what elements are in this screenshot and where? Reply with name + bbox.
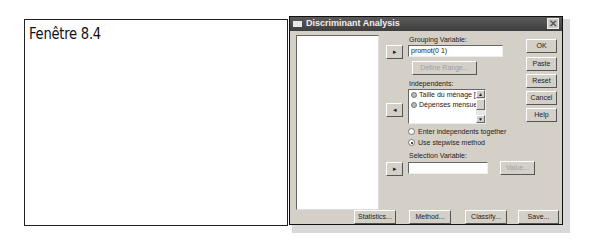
radio-button-icon xyxy=(408,128,415,135)
figure-caption: Fenêtre 8.4 xyxy=(29,24,101,43)
paste-button[interactable]: Paste xyxy=(526,57,557,71)
define-range-button[interactable]: Define Range... xyxy=(412,61,477,75)
scale-variable-icon xyxy=(411,102,417,108)
selection-variable-label: Selection Variable: xyxy=(409,152,467,159)
window-icon xyxy=(293,21,302,27)
source-variable-list[interactable] xyxy=(296,35,379,210)
classify-button[interactable]: Classify... xyxy=(465,210,507,224)
radio-stepwise[interactable]: Use stepwise method xyxy=(408,139,485,146)
discriminant-analysis-dialog: Discriminant Analysis ✕ ▸ Grouping Varia… xyxy=(289,16,563,225)
radio-button-selected-icon xyxy=(408,139,415,146)
list-item[interactable]: Dépenses mensuel xyxy=(411,101,479,108)
arrow-right-icon: ▸ xyxy=(393,165,397,172)
dialog-title: Discriminant Analysis xyxy=(306,18,400,28)
radio-enter-together[interactable]: Enter independents together xyxy=(408,128,506,135)
move-to-grouping-button[interactable]: ▸ xyxy=(386,45,403,59)
scroll-down-icon[interactable]: ▼ xyxy=(476,115,485,123)
cancel-button[interactable]: Cancel xyxy=(526,91,557,105)
scale-variable-icon xyxy=(411,92,417,98)
statistics-button[interactable]: Statistics... xyxy=(354,210,396,224)
independents-label: Independents: xyxy=(409,80,453,87)
move-to-independents-button[interactable]: ◂ xyxy=(386,103,403,117)
save-button[interactable]: Save... xyxy=(518,210,559,224)
independents-scrollbar[interactable]: ▲ ▼ xyxy=(476,90,485,123)
value-button[interactable]: Value... xyxy=(500,161,535,175)
reset-button[interactable]: Reset xyxy=(526,74,557,88)
selection-variable-field[interactable] xyxy=(408,162,488,174)
method-button[interactable]: Method... xyxy=(409,210,451,224)
move-to-selection-button[interactable]: ▸ xyxy=(386,162,403,176)
arrow-right-icon: ▸ xyxy=(393,48,397,55)
title-bar[interactable]: Discriminant Analysis ✕ xyxy=(290,17,562,31)
independents-list[interactable]: Taille du ménage [t Dépenses mensuel ▲ ▼ xyxy=(408,89,486,124)
grouping-variable-label: Grouping Variable: xyxy=(409,36,467,43)
scroll-thumb[interactable] xyxy=(476,99,485,110)
figure-caption-box: Fenêtre 8.4 xyxy=(24,19,288,226)
close-icon[interactable]: ✕ xyxy=(547,18,559,29)
ok-button[interactable]: OK xyxy=(526,39,557,53)
help-button[interactable]: Help xyxy=(526,108,557,122)
arrow-left-icon: ◂ xyxy=(393,106,397,113)
scroll-up-icon[interactable]: ▲ xyxy=(476,90,485,98)
list-item[interactable]: Taille du ménage [t xyxy=(411,91,478,98)
grouping-variable-field[interactable]: promot(0 1) xyxy=(408,45,503,57)
